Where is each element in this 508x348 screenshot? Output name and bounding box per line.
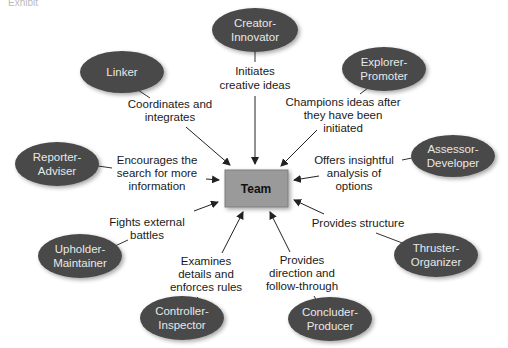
svg-text:Examines: Examines [181,255,232,267]
node-concluder-producer: Concluder- Producer [288,297,372,341]
svg-text:Maintainer: Maintainer [53,257,107,269]
node-thruster-organizer: Thruster- Organizer [394,233,478,277]
svg-text:Assessor-: Assessor- [427,143,478,155]
svg-text:options: options [335,180,372,192]
svg-text:Thruster-: Thruster- [413,242,460,254]
desc-assessor-developer: Offers insightful analysis of options [314,154,394,192]
desc-linker: Coordinates and integrates [128,98,212,123]
svg-text:details and: details and [178,268,234,280]
svg-text:initiated: initiated [323,122,363,134]
svg-text:Coordinates and: Coordinates and [128,98,212,110]
svg-text:Explorer-: Explorer- [361,56,408,68]
node-explorer-promoter: Explorer- Promoter [342,47,426,91]
svg-text:Fights external: Fights external [109,216,184,228]
svg-text:Organizer: Organizer [411,256,462,268]
svg-text:battles: battles [130,229,164,241]
svg-text:Linker: Linker [106,66,137,78]
svg-text:they have been: they have been [304,109,383,121]
desc-thruster-organizer: Provides structure [312,217,405,229]
svg-text:direction and: direction and [269,267,335,279]
desc-controller-inspector: Examines details and enforces rules [170,255,242,293]
node-assessor-developer: Assessor- Developer [411,135,495,177]
svg-text:Creator-: Creator- [234,17,276,29]
node-creator-innovator: Creator- Innovator [212,8,298,52]
svg-text:integrates: integrates [145,111,196,123]
desc-upholder-maintainer: Fights external battles [109,216,184,241]
svg-text:analysis of: analysis of [327,167,382,179]
svg-text:Initiates: Initiates [235,65,275,77]
svg-text:Adviser: Adviser [38,165,77,177]
svg-text:follow-through: follow-through [266,280,338,292]
svg-text:Provides: Provides [280,254,325,266]
svg-text:Encourages the: Encourages the [117,154,198,166]
svg-text:Provides structure: Provides structure [312,217,405,229]
svg-text:Innovator: Innovator [231,31,279,43]
svg-text:Promoter: Promoter [360,70,407,82]
exhibit-label: Exhibit [8,0,38,8]
svg-text:search for more: search for more [117,167,198,179]
svg-text:Developer: Developer [427,157,480,169]
svg-text:enforces rules: enforces rules [170,281,242,293]
desc-concluder-producer: Provides direction and follow-through [266,254,338,292]
svg-text:Champions ideas after: Champions ideas after [285,96,400,108]
svg-text:information: information [129,180,186,192]
svg-text:Upholder-: Upholder- [55,243,106,255]
svg-text:creative ideas: creative ideas [220,79,291,91]
svg-text:Reporter-: Reporter- [33,151,82,163]
node-upholder-maintainer: Upholder- Maintainer [38,234,122,278]
svg-text:Concluder-: Concluder- [302,306,358,318]
svg-text:Inspector: Inspector [158,319,205,331]
svg-text:Offers insightful: Offers insightful [314,154,394,166]
node-linker: Linker [80,51,164,93]
node-controller-inspector: Controller- Inspector [140,296,224,340]
desc-reporter-adviser: Encourages the search for more informati… [117,154,198,192]
node-reporter-adviser: Reporter- Adviser [15,142,99,186]
svg-text:Controller-: Controller- [155,305,209,317]
desc-creator-innovator: Initiates creative ideas [220,65,291,91]
svg-text:Producer: Producer [307,320,354,332]
desc-explorer-promoter: Champions ideas after they have been ini… [285,96,400,134]
team-roles-diagram: Exhibit Team Creator- Innovator Initiate… [0,0,508,348]
team-label: Team [241,182,271,196]
